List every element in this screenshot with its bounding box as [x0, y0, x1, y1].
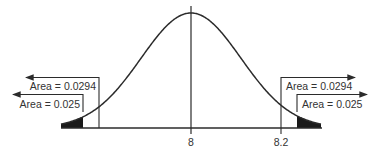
critical-tick-label: 8.2: [274, 136, 289, 148]
left-outer-area-label: Area = 0.0294: [30, 80, 96, 92]
left-inner-area-label: Area = 0.025: [20, 98, 81, 110]
right-inner-area-label: Area = 0.025: [302, 98, 363, 110]
mean-tick-label: 8: [188, 136, 194, 148]
normal-curve-diagram: Area = 0.0294 Area = 0.025 Area = 0.0294…: [0, 0, 378, 158]
right-outer-area-label: Area = 0.0294: [286, 80, 352, 92]
